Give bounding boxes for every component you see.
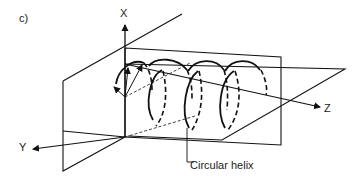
z-axis xyxy=(125,64,320,107)
y-axis-label: Y xyxy=(19,142,26,153)
helix-callout-label: Circular helix xyxy=(190,160,254,171)
z-axis-label: Z xyxy=(324,103,331,114)
xy-plane xyxy=(63,14,182,171)
helix-diagram xyxy=(0,0,362,178)
panel-label: c) xyxy=(19,13,28,24)
radius-vectors xyxy=(114,65,142,97)
callout-leader xyxy=(187,128,194,162)
y-axis xyxy=(33,137,125,149)
yz-plane xyxy=(63,64,345,140)
x-axis-label: X xyxy=(120,8,127,19)
